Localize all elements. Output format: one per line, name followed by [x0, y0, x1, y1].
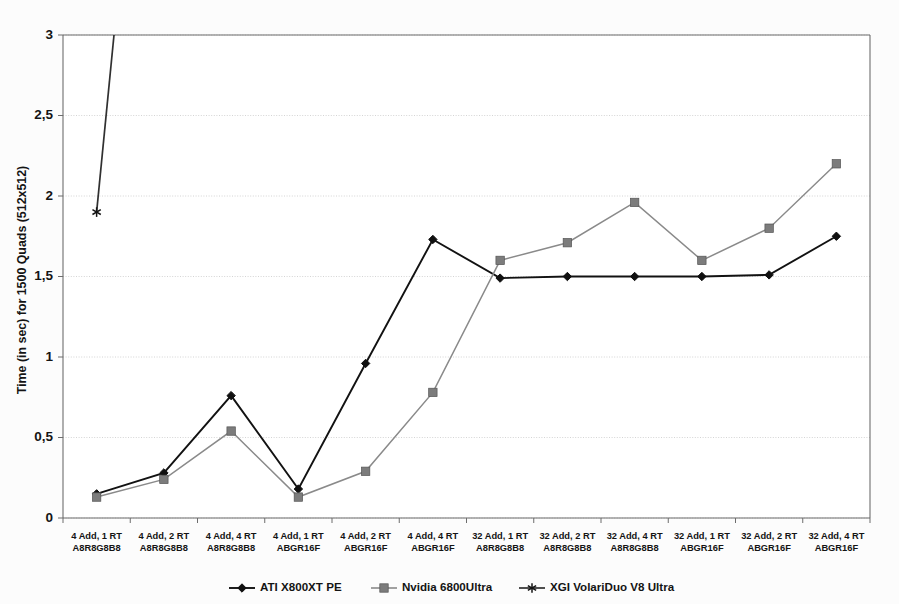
x-axis-tick-label: ABGR16F: [277, 543, 321, 553]
x-axis-tick-label: 32 Add, 4 RT: [607, 531, 663, 541]
y-axis-tick-label: 1: [45, 349, 53, 364]
data-point-marker: [630, 198, 638, 206]
x-axis-tick-label: 4 Add, 2 RT: [340, 531, 391, 541]
y-axis-tick-label: 0,5: [34, 429, 53, 444]
data-point-marker: [160, 475, 168, 483]
x-axis-tick-label: A8R8G8B8: [207, 543, 255, 553]
x-axis-tick-label: 4 Add, 1 RT: [273, 531, 324, 541]
x-axis-tick-label: 4 Add, 1 RT: [71, 531, 122, 541]
x-axis-tick-label: ABGR16F: [815, 543, 859, 553]
legend-item-label: XGI VolariDuo V8 Ultra: [550, 580, 675, 593]
data-point-marker: [294, 493, 302, 501]
x-axis-tick-label: 4 Add, 2 RT: [138, 531, 189, 541]
legend-item-label: ATI X800XT PE: [260, 580, 342, 593]
data-point-marker: [92, 493, 100, 501]
x-axis-tick-label: 32 Add, 2 RT: [539, 531, 595, 541]
legend-marker-icon: [380, 584, 388, 592]
x-axis-tick-label: A8R8G8B8: [476, 543, 524, 553]
x-axis-tick-label: 32 Add, 4 RT: [808, 531, 864, 541]
x-axis-tick-label: 32 Add, 1 RT: [674, 531, 730, 541]
x-axis-tick-label: ABGR16F: [344, 543, 388, 553]
x-axis-tick-label: A8R8G8B8: [543, 543, 591, 553]
data-point-marker: [496, 256, 504, 264]
y-axis-tick-label: 0: [45, 510, 53, 525]
chart-container: 00,511,522,53 4 Add, 1 RTA8R8G8B84 Add, …: [0, 0, 899, 604]
data-point-marker: [563, 238, 571, 246]
x-axis-tick-label: 32 Add, 2 RT: [741, 531, 797, 541]
legend-item-label: Nvidia 6800Ultra: [402, 580, 493, 593]
x-axis-tick-label: A8R8G8B8: [73, 543, 121, 553]
x-axis-tick-label: 4 Add, 4 RT: [206, 531, 257, 541]
x-axis-tick-label: 32 Add, 1 RT: [472, 531, 528, 541]
line-chart: 00,511,522,53 4 Add, 1 RTA8R8G8B84 Add, …: [0, 0, 899, 604]
data-point-marker: [765, 224, 773, 232]
data-point-marker: [227, 427, 235, 435]
data-point-marker: [429, 388, 437, 396]
x-axis-tick-label: A8R8G8B8: [611, 543, 659, 553]
x-axis-tick-label: ABGR16F: [747, 543, 791, 553]
data-point-marker: [361, 467, 369, 475]
x-axis-tick-label: 4 Add, 4 RT: [407, 531, 458, 541]
y-axis-tick-label: 1,5: [34, 268, 53, 283]
x-axis-tick-label: ABGR16F: [680, 543, 724, 553]
data-point-marker: [832, 160, 840, 168]
y-axis-title: Time (in sec) for 1500 Quads (512x512): [15, 166, 29, 394]
x-axis-tick-label: ABGR16F: [411, 543, 455, 553]
y-axis-tick-label: 2,5: [34, 107, 53, 122]
data-point-marker: [698, 256, 706, 264]
chart-legend: ATI X800XT PENvidia 6800UltraXGI VolariD…: [229, 580, 675, 593]
x-axis-tick-label: A8R8G8B8: [140, 543, 188, 553]
y-axis-tick-label: 3: [45, 27, 53, 42]
y-axis-tick-label: 2: [45, 188, 53, 203]
